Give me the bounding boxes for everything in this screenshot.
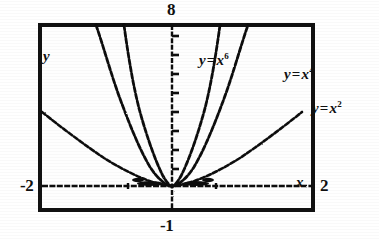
y-axis-max-label: 8	[167, 1, 175, 18]
curve-label-x2-equals: =	[319, 100, 330, 116]
y-axis-min-label: -1	[160, 217, 174, 234]
curve-label-x2-lhs: y	[312, 100, 319, 116]
curve-label-x4-equals: =	[291, 66, 302, 82]
curve-label-x6-exponent: 6	[224, 51, 229, 61]
y-axis-label: y	[43, 49, 50, 64]
x-axis-min-label: -2	[20, 177, 34, 194]
curve-label-x2: y=x2	[312, 100, 342, 116]
curve-label-x4: y=x4	[284, 66, 314, 82]
figure-root: 8 -1 -2 2 y x y=x6 y=x4 y=x2	[0, 0, 379, 239]
curve-label-x4-lhs: y	[284, 66, 291, 82]
curve-label-x4-exponent: 4	[309, 65, 314, 75]
curve-label-x6: y=x6	[199, 52, 229, 68]
curve-label-x2-exponent: 2	[337, 99, 342, 109]
x-axis-max-label: 2	[320, 177, 328, 194]
plot-frame	[38, 23, 315, 212]
curve-label-x6-lhs: y	[199, 52, 206, 68]
x-axis-label: x	[296, 175, 304, 190]
curve-label-x6-equals: =	[206, 52, 217, 68]
